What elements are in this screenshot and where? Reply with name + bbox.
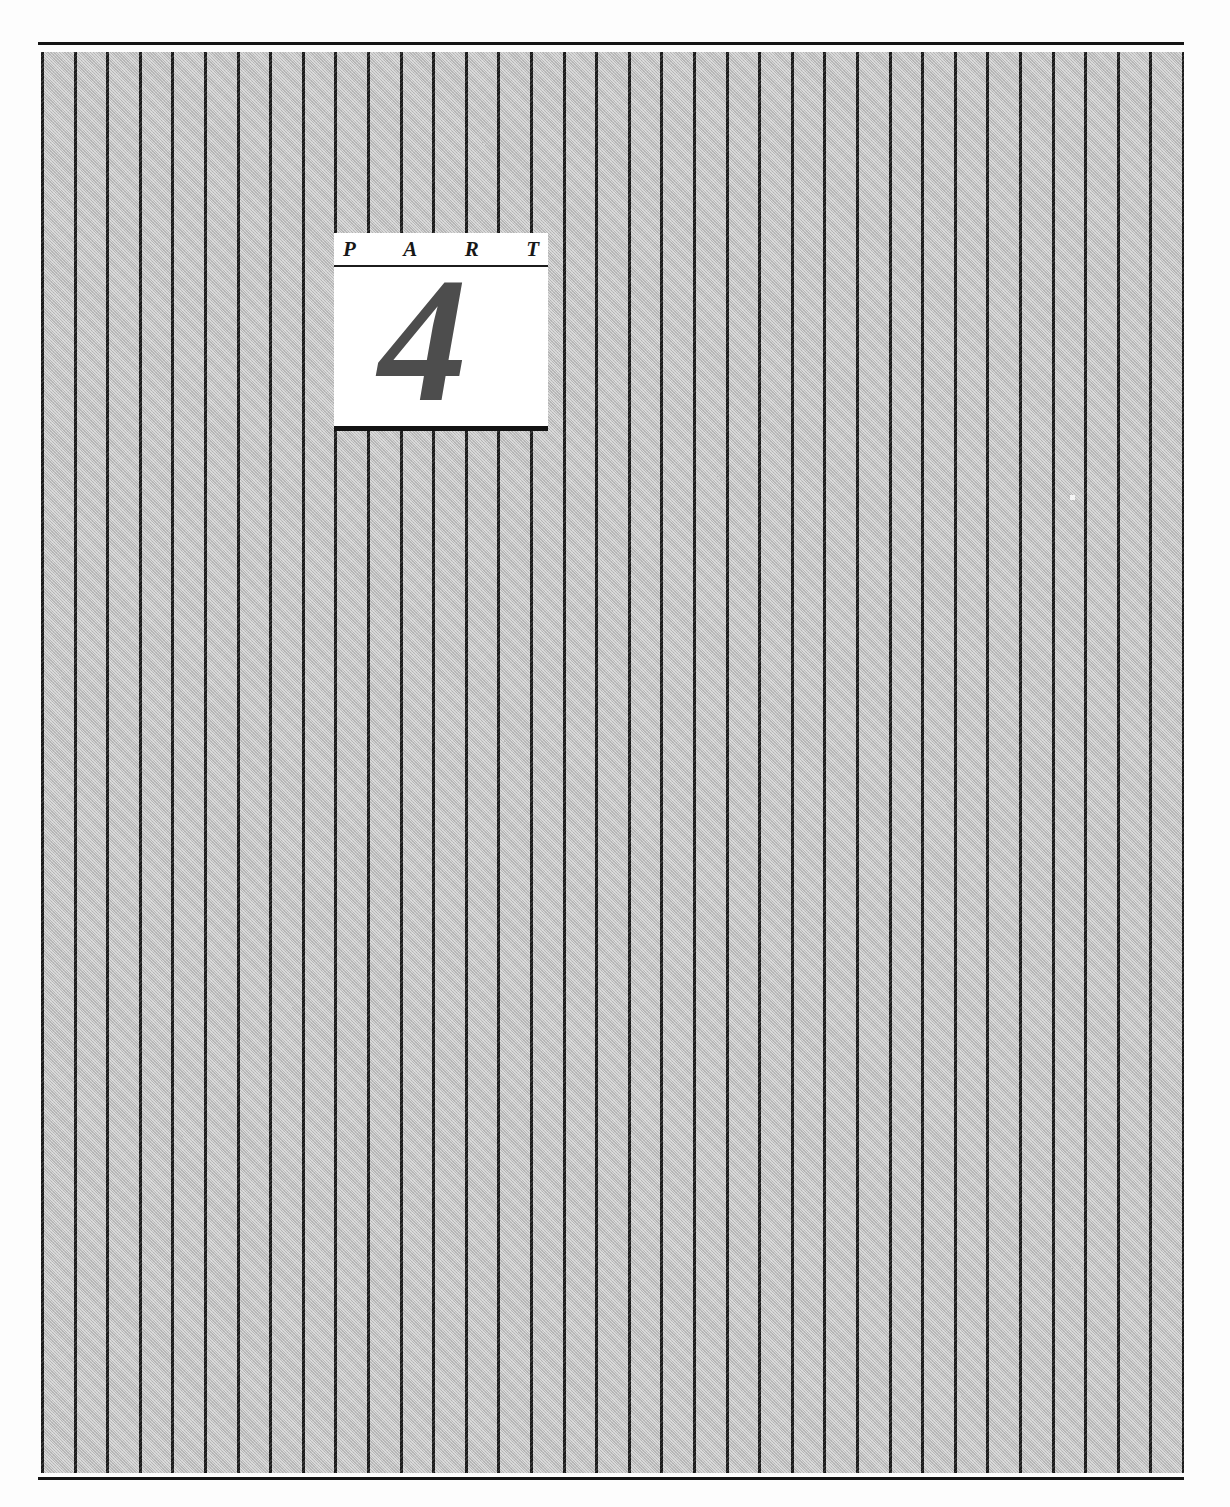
part-divider-page: P A R T 4	[0, 0, 1230, 1507]
part-number: 4	[338, 251, 508, 429]
halftone-texture-overlay	[41, 52, 1184, 1473]
part-label-box: P A R T 4	[334, 233, 548, 431]
striped-halftone-panel	[41, 52, 1184, 1473]
part-number-area: 4	[334, 267, 548, 426]
part-letter-t: T	[526, 239, 539, 260]
page-bottom-rule	[38, 1477, 1184, 1480]
scan-artifact-speck	[1070, 495, 1075, 500]
page-top-rule	[38, 42, 1184, 45]
